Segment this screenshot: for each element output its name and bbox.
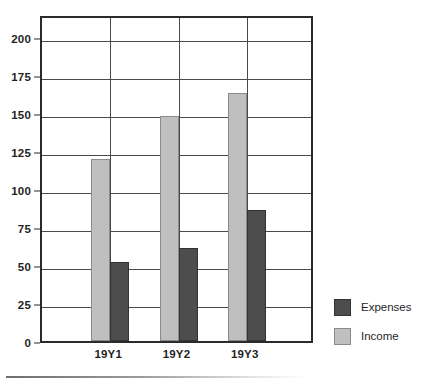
page-rule-artifact: [6, 376, 306, 378]
chart-legend: ExpensesIncome: [334, 296, 430, 354]
legend-label: Expenses: [361, 301, 412, 313]
bar-income-19y1: [91, 159, 110, 342]
y-tick-label: 25: [0, 299, 31, 311]
plot-area: [40, 16, 313, 343]
y-tick-label: 125: [0, 147, 31, 159]
bar-chart-figure: 0255075100125150175200 19Y119Y219Y3 Expe…: [0, 0, 431, 386]
y-tick-label: 175: [0, 71, 31, 83]
y-tick-label: 75: [0, 223, 31, 235]
legend-item-income[interactable]: Income: [334, 325, 430, 347]
gridline-horizontal: [42, 41, 311, 42]
x-tick-label: 19Y1: [94, 348, 122, 360]
gridline-horizontal: [42, 79, 311, 80]
bar-expenses-19y1: [110, 262, 129, 341]
y-tick-label: 200: [0, 33, 31, 45]
x-tick-label: 19Y3: [231, 348, 259, 360]
bar-expenses-19y2: [179, 248, 198, 341]
x-tick-label: 19Y2: [163, 348, 191, 360]
plot-inner: [42, 18, 311, 341]
bar-income-19y3: [228, 93, 247, 341]
y-tick-label: 50: [0, 261, 31, 273]
legend-label: Income: [361, 330, 399, 342]
y-tick-label: 150: [0, 109, 31, 121]
legend-swatch-income: [334, 328, 351, 345]
y-tick-label: 0: [0, 337, 31, 349]
bar-income-19y2: [160, 116, 179, 341]
legend-swatch-expenses: [334, 299, 351, 316]
bar-expenses-19y3: [247, 210, 266, 341]
legend-item-expenses[interactable]: Expenses: [334, 296, 430, 318]
y-tick-label: 100: [0, 185, 31, 197]
